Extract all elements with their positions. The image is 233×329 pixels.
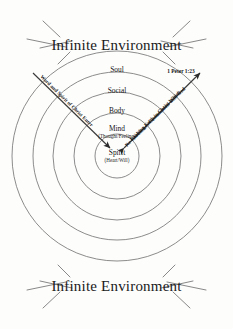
ray-bottom-left-4: [58, 265, 70, 277]
infinite-environment-top-label: Infinite Environment: [51, 37, 182, 53]
ring-label-spirit: Spirit: [109, 148, 126, 157]
left-arrow-label: Word and Spirit of Christ Enter: [39, 73, 95, 128]
ray-bottom-right-3: [173, 292, 190, 308]
concentric-environment-diagram: Infinite Environment Infinite Environmen…: [0, 0, 233, 329]
ray-top-left-3: [43, 21, 60, 37]
ring-label-body: Body: [109, 106, 125, 115]
infinite-environment-bottom-label: Infinite Environment: [51, 278, 182, 294]
scripture-reference-label: 1 Peter 1:23: [167, 68, 195, 74]
ring-sublabel-mind: (Thought/Feeling): [98, 133, 136, 140]
ring-label-group: Soul Social Body Mind (Thought/Feeling) …: [98, 65, 136, 164]
ring-label-social: Social: [108, 86, 126, 95]
ray-top-left-4: [58, 52, 70, 64]
ray-bottom-left-3: [43, 292, 60, 308]
ring-sublabel-spirit: (Heart/Will): [105, 157, 130, 164]
ring-label-soul: Soul: [110, 65, 124, 74]
ray-bottom-right-4: [163, 265, 175, 277]
diagram-page: Infinite Environment Infinite Environmen…: [0, 0, 233, 329]
ray-top-right-3: [173, 21, 190, 37]
ring-label-mind: Mind: [109, 124, 125, 133]
